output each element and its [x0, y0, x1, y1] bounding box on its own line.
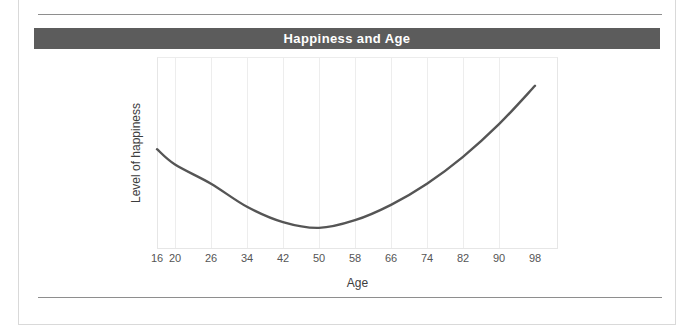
top-horizontal-rule	[38, 14, 662, 15]
bottom-horizontal-rule	[38, 297, 662, 298]
chart-title: Happiness and Age	[284, 32, 411, 45]
chart-title-band: Happiness and Age	[34, 28, 660, 49]
